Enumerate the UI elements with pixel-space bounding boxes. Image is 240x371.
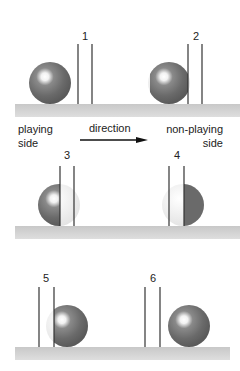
panel-6: 6	[145, 272, 210, 347]
panel-2: 2	[148, 30, 202, 104]
ball	[168, 305, 210, 347]
ball	[29, 62, 71, 104]
panel-number: 2	[193, 30, 199, 42]
ground-bottom	[15, 347, 230, 360]
panel-3: 3	[38, 149, 80, 226]
hoop-diagram: 1 2 playing side direction non-playing s…	[0, 0, 240, 371]
playing-side-label-2: side	[18, 137, 38, 149]
panel-5: 5	[39, 272, 88, 347]
ground-top	[15, 104, 240, 117]
panel-number: 5	[43, 272, 49, 284]
panel-number: 3	[64, 149, 70, 161]
non-playing-side-label-2: side	[203, 137, 223, 149]
ground-middle	[15, 226, 240, 239]
playing-side-label: playing	[18, 123, 53, 135]
direction-arrow-icon	[136, 137, 148, 143]
panel-number: 6	[150, 272, 156, 284]
direction-label: direction	[89, 122, 131, 134]
direction-labels: playing side direction non-playing side	[18, 122, 223, 149]
panel-1: 1	[29, 30, 92, 104]
panel-number: 4	[174, 149, 180, 161]
ball	[148, 62, 190, 104]
panel-number: 1	[82, 30, 88, 42]
non-playing-side-label: non-playing	[166, 123, 223, 135]
panel-4: 4	[162, 149, 204, 226]
